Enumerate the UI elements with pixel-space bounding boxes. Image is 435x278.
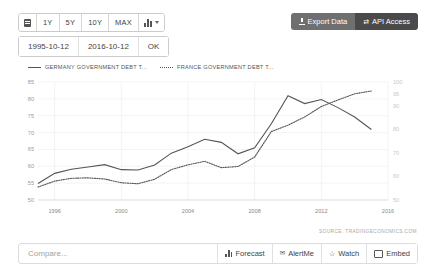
chart-toolbar: 1Y 5Y 10Y MAX xyxy=(18,13,165,32)
calendar-icon xyxy=(24,19,31,27)
svg-text:1996: 1996 xyxy=(48,208,60,214)
legend-label-germany: GERMANY GOVERNMENT DEBT T... xyxy=(45,64,147,70)
svg-text:75: 75 xyxy=(28,113,34,119)
date-to-input[interactable]: 2016-10-12 xyxy=(79,37,139,56)
bottom-bar: Compare... Forecast ✉ AlertMe ☆ Watch Em… xyxy=(18,243,418,264)
legend-label-france: FRANCE GOVERNMENT DEBT T... xyxy=(177,64,274,70)
svg-text:50: 50 xyxy=(28,197,34,203)
download-icon xyxy=(299,18,305,25)
export-api-group: Export Data ⇄ API Access xyxy=(291,13,418,30)
svg-text:2008: 2008 xyxy=(248,208,260,214)
forecast-icon xyxy=(225,250,232,257)
chart-plot[interactable]: 8580757065605550100959080706050199620002… xyxy=(16,76,420,224)
watch-button[interactable]: ☆ Watch xyxy=(321,244,366,263)
chart-svg: 8580757065605550100959080706050199620002… xyxy=(16,76,420,224)
range-button-max[interactable]: MAX xyxy=(109,14,139,31)
range-button-group: 1Y 5Y 10Y MAX xyxy=(18,13,165,32)
chevron-down-icon xyxy=(155,21,159,24)
svg-text:80: 80 xyxy=(28,96,34,102)
compare-input[interactable]: Compare... xyxy=(19,244,217,263)
svg-text:70: 70 xyxy=(28,130,34,136)
svg-text:50: 50 xyxy=(393,197,399,203)
envelope-icon: ✉ xyxy=(280,250,285,257)
export-data-button[interactable]: Export Data xyxy=(291,13,356,30)
range-button-1y[interactable]: 1Y xyxy=(37,14,60,31)
chart-type-dropdown[interactable] xyxy=(139,14,164,31)
tradingeconomics-chart-widget: 1Y 5Y 10Y MAX Export Data ⇄ API Access 1… xyxy=(0,0,435,278)
forecast-button[interactable]: Forecast xyxy=(217,244,271,263)
svg-text:2012: 2012 xyxy=(315,208,327,214)
chart-legend: GERMANY GOVERNMENT DEBT T... FRANCE GOVE… xyxy=(28,64,274,70)
calendar-button[interactable] xyxy=(19,14,37,31)
svg-text:55: 55 xyxy=(28,180,34,186)
legend-swatch-solid xyxy=(28,67,41,68)
svg-text:60: 60 xyxy=(393,173,399,179)
bar-chart-icon xyxy=(144,19,152,27)
watch-label: Watch xyxy=(338,249,359,258)
alertme-label: AlertMe xyxy=(288,249,314,258)
svg-text:85: 85 xyxy=(28,79,34,85)
svg-text:65: 65 xyxy=(28,146,34,152)
date-ok-button[interactable]: OK xyxy=(139,37,169,56)
export-data-label: Export Data xyxy=(308,17,348,26)
api-access-label: API Access xyxy=(372,17,410,26)
star-icon: ☆ xyxy=(329,250,335,257)
svg-text:2016: 2016 xyxy=(382,208,394,214)
alertme-button[interactable]: ✉ AlertMe xyxy=(272,244,321,263)
svg-text:2004: 2004 xyxy=(182,208,194,214)
legend-item-germany[interactable]: GERMANY GOVERNMENT DEBT T... xyxy=(28,64,147,70)
exchange-icon: ⇄ xyxy=(363,18,369,25)
api-access-button[interactable]: ⇄ API Access xyxy=(355,13,418,30)
date-range-row: 1995-10-12 2016-10-12 OK xyxy=(18,36,169,57)
embed-label: Embed xyxy=(386,249,410,258)
range-button-5y[interactable]: 5Y xyxy=(60,14,83,31)
embed-button[interactable]: Embed xyxy=(366,244,417,263)
forecast-label: Forecast xyxy=(235,249,264,258)
svg-text:70: 70 xyxy=(393,150,399,156)
range-button-10y[interactable]: 10Y xyxy=(82,14,109,31)
legend-swatch-dotted xyxy=(160,67,173,68)
svg-text:60: 60 xyxy=(28,163,34,169)
svg-text:2000: 2000 xyxy=(115,208,127,214)
embed-icon xyxy=(374,250,383,258)
date-from-input[interactable]: 1995-10-12 xyxy=(19,37,79,56)
svg-text:100: 100 xyxy=(393,79,402,85)
legend-item-france[interactable]: FRANCE GOVERNMENT DEBT T... xyxy=(160,64,274,70)
svg-text:80: 80 xyxy=(393,126,399,132)
chart-source: SOURCE: TRADINGECONOMICS.COM xyxy=(319,229,417,234)
svg-text:95: 95 xyxy=(393,91,399,97)
bottom-button-group: Forecast ✉ AlertMe ☆ Watch Embed xyxy=(217,244,417,263)
svg-text:90: 90 xyxy=(393,103,399,109)
